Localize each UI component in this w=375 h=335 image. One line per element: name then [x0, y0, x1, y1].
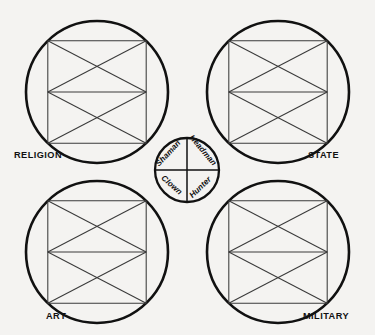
military-lattice [229, 201, 327, 303]
circle-group-art[interactable] [26, 181, 168, 323]
diagram-canvas: Shaman Headman Clown Hunter RELIGION STA… [0, 0, 375, 335]
state-lattice [229, 41, 327, 143]
circle-group-military[interactable] [207, 181, 349, 323]
circle-group-religion[interactable] [26, 21, 168, 163]
corner-label-state: STATE [308, 150, 339, 160]
corner-label-religion: RELIGION [14, 150, 62, 160]
corner-label-military: MILITARY [303, 311, 349, 321]
circle-group-state[interactable] [207, 21, 349, 163]
corner-label-art: ART [46, 311, 66, 321]
art-lattice [48, 201, 146, 303]
religion-lattice [48, 41, 146, 143]
four-circle-lattice-diagram: Shaman Headman Clown Hunter RELIGION STA… [0, 0, 375, 335]
